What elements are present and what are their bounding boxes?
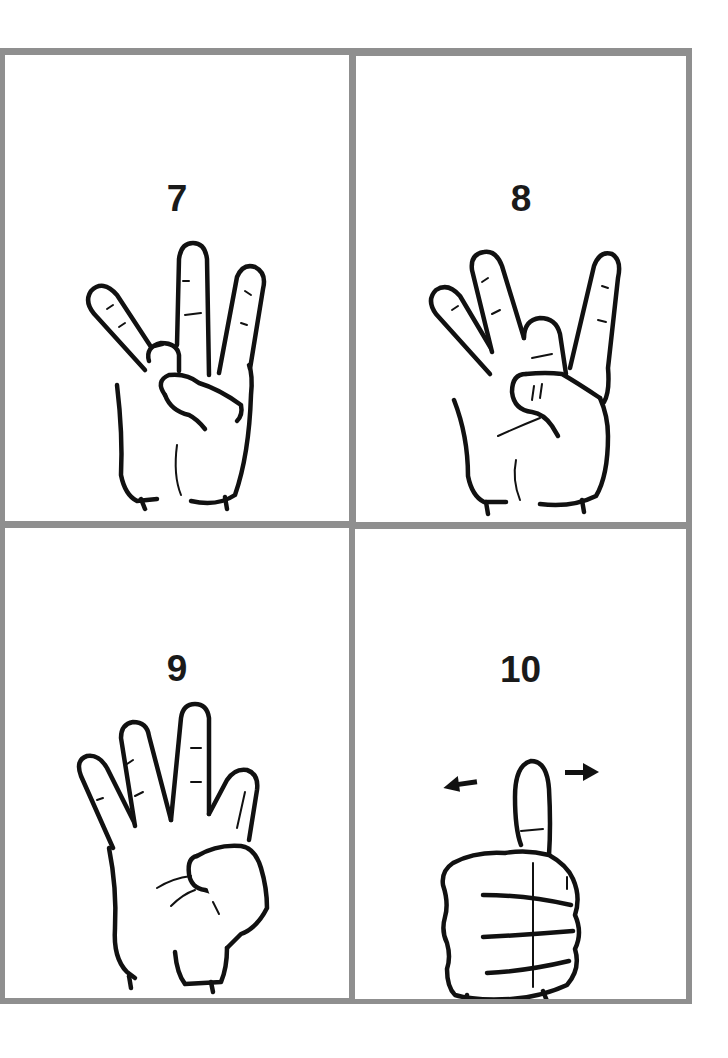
number-sign-chart: 7 8	[0, 48, 692, 1004]
hand-sign-nine-icon	[5, 528, 349, 998]
hand-sign-ten-thumb-shake-icon	[355, 529, 686, 999]
hand-sign-seven-icon	[5, 55, 349, 521]
hand-sign-eight-icon	[356, 56, 686, 522]
card-nine: 9	[5, 528, 349, 998]
card-ten: 10	[355, 529, 686, 999]
arrow-right-icon	[565, 763, 599, 781]
card-eight: 8	[356, 56, 686, 522]
arrow-left-icon	[442, 776, 477, 794]
card-seven: 7	[5, 55, 349, 521]
